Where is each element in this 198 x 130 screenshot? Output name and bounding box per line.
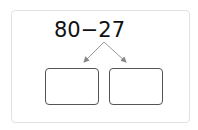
split-arrows <box>0 0 198 130</box>
answer-box-right[interactable] <box>109 68 163 105</box>
arrow-right-icon <box>104 42 126 62</box>
answer-box-left[interactable] <box>45 68 99 105</box>
arrow-left-icon <box>84 42 104 62</box>
